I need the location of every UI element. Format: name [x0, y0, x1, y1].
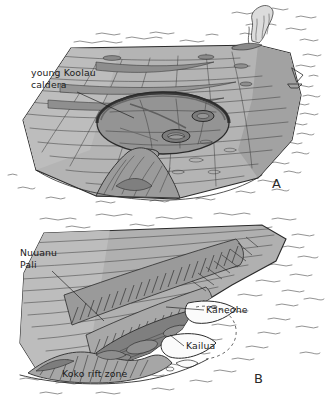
panel-a-drawing: young Koolau caldera A [0, 0, 329, 205]
panel-b-drawing: Nuuanu Pali Kaneohe Kailua Koko rift zon… [0, 203, 329, 405]
nuuanu-pali-label-line2: Pali [20, 259, 37, 270]
koolau-volcano-figure: young Koolau caldera A [0, 0, 329, 405]
panel-a-young-caldera: young Koolau caldera A [0, 0, 329, 205]
eroded-landmass-b [18, 225, 286, 375]
eruption-plume [248, 5, 273, 44]
caldera-label-line2: caldera [31, 79, 67, 90]
kailua-label: Kailua [186, 340, 215, 351]
nuuanu-pali-label-line1: Nuuanu [20, 247, 57, 258]
panel-b-eroded-range: Nuuanu Pali Kaneohe Kailua Koko rift zon… [0, 203, 329, 405]
koko-rift-zone-label: Koko rift zone [62, 368, 128, 379]
panel-letter-a: A [272, 176, 281, 191]
young-caldera [97, 92, 229, 154]
panel-letter-b: B [254, 371, 263, 386]
kaneohe-label: Kaneohe [206, 304, 248, 315]
horizon-sea-band [74, 32, 218, 43]
caldera-label-line1: young Koolau [31, 67, 96, 78]
